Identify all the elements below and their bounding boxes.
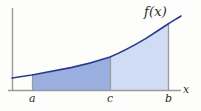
tick-label-a: a	[29, 93, 36, 104]
tick-label-b: b	[165, 93, 172, 104]
x-axis-label: x	[183, 84, 189, 95]
area-under-curve-figure: f(x) a c b x	[0, 0, 201, 111]
tick-label-c: c	[107, 93, 113, 104]
shaded-region-c-to-b	[110, 24, 168, 90]
function-label: f(x)	[144, 5, 167, 18]
